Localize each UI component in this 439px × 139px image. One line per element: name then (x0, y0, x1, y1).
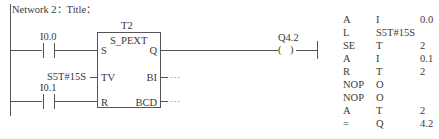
stl-op: R (343, 65, 350, 78)
coil-q4-2-label: Q4.2 (278, 32, 299, 44)
timer-name: T2 (121, 20, 133, 32)
stl-address: 4.2 (420, 117, 433, 130)
pin-bi-label: BI (147, 72, 158, 84)
rung-1-wire-left (10, 50, 42, 51)
q-wire-to-coil (161, 50, 278, 51)
stl-op: NOP (343, 78, 364, 91)
stl-op: NOP (343, 91, 364, 104)
pin-tv-label: TV (101, 72, 115, 84)
stl-address: 2 (420, 39, 425, 52)
contact-bar-left-icon (43, 94, 44, 109)
stl-address: 0.1 (420, 52, 433, 65)
contact-bar-left-icon (43, 43, 44, 58)
coil-q4-2[interactable]: ( ) (278, 44, 297, 56)
stl-operand: I (376, 13, 380, 26)
stl-address: 2 (420, 65, 425, 78)
coil-wire-to-rail (296, 50, 318, 51)
rung-2-wire-to-r (55, 101, 97, 102)
contact-i0-1-label: I0.1 (40, 82, 57, 94)
network-header: Network 2：Title： (12, 4, 96, 16)
right-power-rail (317, 41, 318, 59)
stl-address: 0.0 (420, 13, 433, 26)
stl-operand: T (376, 65, 382, 78)
stl-op: L (343, 26, 349, 39)
rung-2-wire-left (10, 101, 42, 102)
stl-operand: Q (376, 117, 384, 130)
timer-type: S_PEXT (110, 35, 147, 47)
left-power-rail (10, 4, 11, 116)
stl-operand: T (376, 39, 382, 52)
rung-1-wire-to-s (55, 50, 97, 51)
stl-op: A (343, 13, 351, 26)
timer-block-s-pext[interactable]: S_PEXT S TV R Q BI BCD (97, 32, 161, 108)
stl-operand: I (376, 52, 380, 65)
bcd-unconnected-marker: ··· (170, 95, 181, 107)
stl-operand: O (376, 78, 384, 91)
stl-address: 2 (420, 104, 425, 117)
bi-unconnected-marker: ··· (170, 71, 181, 83)
stl-op: = (343, 117, 349, 130)
bcd-wire (161, 101, 168, 102)
stl-op: A (343, 104, 351, 117)
pin-r-label: R (101, 97, 108, 109)
bi-wire (161, 77, 168, 78)
stl-operand: O (376, 91, 384, 104)
tv-wire (90, 77, 97, 78)
stl-operand: S5T#15S (376, 26, 415, 39)
pin-bcd-label: BCD (135, 97, 157, 109)
contact-i0-1[interactable] (42, 94, 56, 109)
stl-op: SE (343, 39, 355, 52)
contact-i0-0-label: I0.0 (40, 31, 57, 43)
stl-op: A (343, 52, 351, 65)
stl-operand: T (376, 104, 382, 117)
pin-q-label: Q (149, 45, 157, 57)
pin-s-label: S (101, 45, 107, 57)
contact-i0-0[interactable] (42, 43, 56, 58)
